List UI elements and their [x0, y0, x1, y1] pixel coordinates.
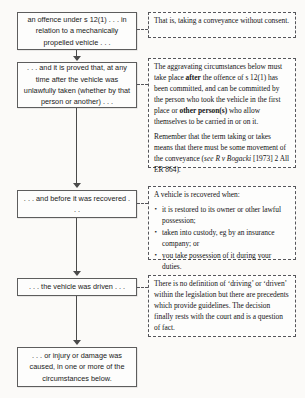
flow-step-5-label: . . . or injury or damage was caused, in… [22, 350, 132, 384]
flow-step-1: an offence under s 12(1) . . . in relati… [17, 12, 137, 50]
note-link-2 [137, 84, 148, 85]
flow-step-4-label: . . . the vehicle was driven . . . [22, 281, 132, 292]
flowchart-canvas: an offence under s 12(1) . . . in relati… [0, 0, 305, 398]
note-2-emphasis-after: after [186, 73, 201, 82]
flow-step-3: . . . and before it was recovered . . . [17, 190, 137, 218]
flow-step-2-label: . . . and it is proved that, at any time… [22, 62, 132, 107]
note-box-2: The aggravating circumstances below must… [148, 58, 296, 168]
note-2-paragraph-2: Remember that the term taking or takes m… [154, 132, 290, 176]
note-link-1 [137, 29, 148, 30]
note-2-see-italic: see [204, 154, 213, 163]
list-item: it is restored to its owner or other law… [154, 205, 290, 227]
note-box-4: There is no definition of ‘driving’ or ‘… [148, 275, 296, 337]
arrowhead-icon [73, 340, 81, 345]
flow-step-1-label: an offence under s 12(1) . . . in relati… [22, 14, 132, 48]
recovered-conditions-list: it is restored to its owner or other law… [154, 205, 290, 273]
note-box-1: That is, taking a conveyance without con… [148, 12, 296, 38]
note-link-4 [137, 287, 148, 288]
note-3-lead: A vehicle is recovered when: [154, 190, 290, 201]
note-box-3: A vehicle is recovered when: it is resto… [148, 186, 296, 260]
connector-arrow-3-to-4 [76, 218, 77, 273]
note-2-emphasis-other-persons: other person(s) [179, 106, 227, 115]
flow-step-3-label: . . . and before it was recovered . . . [22, 193, 132, 216]
flow-step-5: . . . or injury or damage was caused, in… [17, 347, 137, 387]
arrowhead-icon [73, 183, 81, 188]
note-1-paragraph: That is, taking a conveyance without con… [154, 16, 290, 27]
flow-step-2: . . . and it is proved that, at any time… [17, 62, 137, 108]
connector-arrow-4-to-5 [76, 296, 77, 342]
flow-step-4: . . . the vehicle was driven . . . [17, 278, 137, 296]
note-2-paragraph-1: The aggravating circumstances below must… [154, 62, 290, 128]
list-item: you take possession of it during your du… [154, 251, 290, 273]
note-2-case-citation: R v Bogacki [215, 154, 251, 163]
connector-arrow-2-to-3 [76, 108, 77, 185]
list-item: taken into custody, eg by an insurance c… [154, 228, 290, 250]
note-4-paragraph: There is no definition of ‘driving’ or ‘… [154, 279, 290, 334]
arrowhead-icon [73, 271, 81, 276]
note-link-3 [137, 203, 148, 204]
arrowhead-icon [73, 56, 81, 61]
